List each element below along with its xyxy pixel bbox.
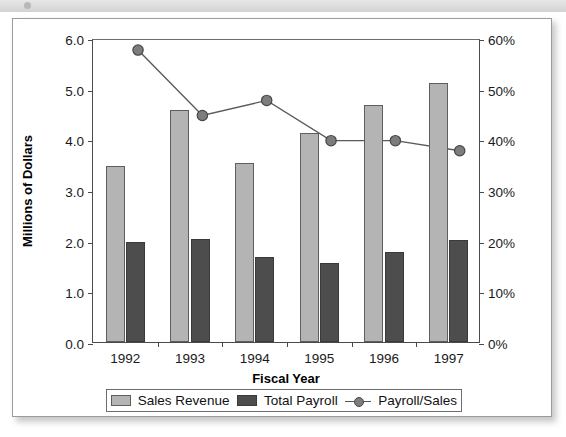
y-axis-tick-mark (88, 141, 93, 142)
x-axis-tick-mark (416, 342, 417, 347)
y-axis-tick-mark (88, 344, 93, 345)
bar-total-payroll (320, 263, 339, 342)
x-axis-tick-mark (287, 342, 288, 347)
x-axis-tick-label: 1997 (434, 351, 464, 366)
x-axis-tick-label: 1995 (304, 351, 334, 366)
bar-sales-revenue (106, 166, 125, 342)
y2-axis-tick-label: 60% (488, 33, 515, 48)
y-axis-tick-mark (88, 293, 93, 294)
y2-axis-tick-mark (479, 91, 484, 92)
bar-sales-revenue (364, 105, 383, 342)
bar-total-payroll (255, 257, 274, 342)
x-axis-title: Fiscal Year (92, 371, 480, 386)
payroll-sales-data-point (390, 136, 400, 146)
payroll-sales-data-point (197, 110, 207, 120)
x-axis-tick-mark (158, 342, 159, 347)
combo-chart: Millions of Dollars Fiscal Year 0.01.02.… (13, 19, 553, 418)
payroll-sales-data-point (133, 45, 143, 55)
plot-area: 0.01.02.03.04.05.06.00%10%20%30%40%50%60… (92, 39, 480, 343)
y-axis-tick-label: 6.0 (65, 33, 84, 48)
y2-axis-tick-label: 10% (488, 286, 515, 301)
payroll-sales-data-point (262, 95, 272, 105)
y2-axis-tick-mark (479, 243, 484, 244)
x-axis-tick-label: 1994 (240, 351, 270, 366)
chart-panel: Millions of Dollars Fiscal Year 0.01.02.… (12, 18, 552, 417)
x-axis-tick-label: 1993 (175, 351, 205, 366)
payroll-sales-data-point (455, 146, 465, 156)
y-axis-tick-label: 4.0 (65, 134, 84, 149)
y2-axis-tick-mark (479, 40, 484, 41)
bar-total-payroll (385, 252, 404, 342)
legend-label-total-payroll: Total Payroll (264, 393, 338, 408)
y-axis-tick-mark (88, 40, 93, 41)
chart-legend: Sales Revenue Total Payroll Payroll/Sale… (106, 389, 462, 412)
y-axis-tick-mark (88, 91, 93, 92)
y2-axis-tick-mark (479, 192, 484, 193)
legend-swatch-sales-revenue (111, 395, 131, 406)
x-axis-tick-mark (352, 342, 353, 347)
legend-item-total-payroll[interactable]: Total Payroll (237, 393, 338, 408)
bar-sales-revenue (235, 163, 254, 342)
y2-axis-tick-mark (479, 141, 484, 142)
payroll-sales-data-point (326, 136, 336, 146)
y-axis-tick-label: 3.0 (65, 185, 84, 200)
x-axis-tick-mark (222, 342, 223, 347)
legend-label-sales-revenue: Sales Revenue (138, 393, 230, 408)
bar-total-payroll (191, 239, 210, 342)
x-axis-tick-label: 1996 (369, 351, 399, 366)
x-axis-tick-label: 1992 (110, 351, 140, 366)
y2-axis-tick-label: 20% (488, 235, 515, 250)
legend-swatch-payroll-sales-line-icon (345, 395, 371, 406)
y-axis-tick-label: 0.0 (65, 337, 84, 352)
bar-total-payroll (126, 242, 145, 342)
bar-sales-revenue (170, 110, 189, 342)
y2-axis-tick-label: 30% (488, 185, 515, 200)
banner-dot-icon (24, 2, 31, 9)
legend-label-payroll-sales: Payroll/Sales (378, 393, 457, 408)
y-axis-tick-label: 1.0 (65, 286, 84, 301)
y-axis-title: Millions of Dollars (20, 135, 35, 247)
y2-axis-tick-label: 50% (488, 83, 515, 98)
y2-axis-tick-mark (479, 293, 484, 294)
bar-sales-revenue (429, 83, 448, 342)
y2-axis-tick-mark (479, 344, 484, 345)
y-axis-tick-mark (88, 243, 93, 244)
y2-axis-tick-label: 40% (488, 134, 515, 149)
y-axis-tick-label: 5.0 (65, 83, 84, 98)
y-axis-tick-mark (88, 192, 93, 193)
legend-item-sales-revenue[interactable]: Sales Revenue (111, 393, 230, 408)
bar-total-payroll (449, 240, 468, 342)
page-top-banner (0, 0, 566, 12)
y2-axis-tick-label: 0% (488, 337, 508, 352)
legend-item-payroll-sales[interactable]: Payroll/Sales (345, 393, 457, 408)
bar-sales-revenue (300, 133, 319, 342)
legend-swatch-total-payroll (237, 395, 257, 406)
payroll-sales-line-series (93, 40, 479, 342)
y-axis-tick-label: 2.0 (65, 235, 84, 250)
